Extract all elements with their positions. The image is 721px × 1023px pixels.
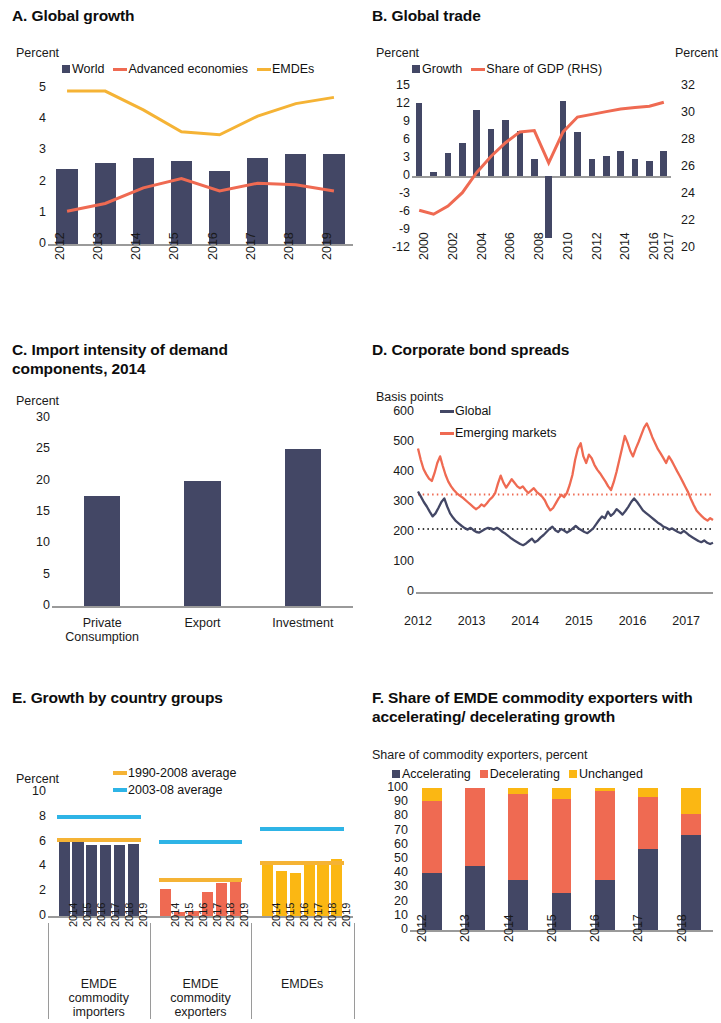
panel-f-y-tick: 10 (376, 908, 408, 922)
panel-f-x-tick: 2018 (675, 914, 689, 942)
panel-e-year-tick: 2017 (211, 903, 223, 927)
panel-d-plot: 0100200300400500600 (368, 406, 720, 608)
panel-d-x-tick: 2016 (611, 614, 655, 628)
panel-c-y-tick: 30 (18, 410, 50, 424)
panel-d-x-tick-labels: 201220132014201520162017 (368, 612, 720, 642)
panel-d-x-tick: 2012 (396, 614, 440, 628)
panel-a-x-tick: 2019 (320, 232, 334, 260)
panel-b-y-axis-label-right: Percent (675, 46, 718, 60)
panel-a-legend-swatch-square (62, 65, 70, 73)
panel-f-y-tick: 50 (376, 851, 408, 865)
panel-e-avg-1990-2008-line (159, 878, 242, 882)
panel-c-category-label: Export (152, 616, 252, 630)
panel-e-year-tick: 2017 (109, 903, 121, 927)
panel-f-bar-segment (595, 788, 615, 791)
panel-a-x-tick: 2014 (129, 232, 143, 260)
panel-b-x-tick: 2014 (618, 232, 632, 260)
panel-a-global-growth: A. Global growth Percent WorldAdvanced e… (8, 6, 360, 306)
panel-e-y-tick: 6 (14, 834, 46, 848)
panel-e-year-tick: 2014 (169, 903, 181, 927)
panel-c-y-tick: 15 (18, 504, 50, 518)
panel-b-legend-item: Growth (412, 62, 462, 76)
panel-f-x-tick: 2017 (631, 914, 645, 942)
panel-a-legend-swatch-line (113, 68, 127, 71)
panel-c-title: C. Import intensity of demand components… (12, 340, 312, 378)
panel-e-group-divider (251, 923, 252, 1019)
panel-e-year-tick: 2019 (238, 903, 250, 927)
panel-e-year-tick: 2018 (326, 903, 338, 927)
panel-c-y-axis-label: Percent (16, 394, 59, 408)
panel-a-x-tick: 2016 (206, 232, 220, 260)
panel-a-legend-label: EMDEs (272, 62, 314, 76)
panel-a-legend-swatch-line (257, 68, 271, 71)
panel-b-legend: GrowthShare of GDP (RHS) (412, 62, 611, 76)
panel-b-y-axis-label-left: Percent (376, 46, 419, 60)
panel-f-legend-swatch-square (480, 770, 488, 778)
panel-f-y-tick: 80 (376, 808, 408, 822)
panel-e-y-tick: 4 (14, 858, 46, 872)
panel-d-series-emerging-markets (418, 423, 713, 520)
panel-c-y-tick: 5 (18, 567, 50, 581)
panel-e-year-tick: 2015 (284, 903, 296, 927)
panel-e-y-tick: 2 (14, 883, 46, 897)
panel-f-legend: AcceleratingDeceleratingUnchanged (392, 767, 652, 781)
panel-d-series (368, 406, 720, 608)
panel-e-avg-2003-08-line (57, 815, 140, 819)
panel-c-category-label: Investment (253, 616, 353, 630)
figure-sheet: A. Global growth Percent WorldAdvanced e… (0, 0, 721, 1023)
panel-f-legend-swatch-square (569, 770, 577, 778)
panel-a-legend-label: World (72, 62, 104, 76)
panel-b-x-tick: 2010 (561, 232, 575, 260)
panel-c-import-intensity: C. Import intensity of demand components… (8, 340, 360, 660)
panel-a-legend-item: World (62, 62, 104, 76)
panel-f-x-axis (410, 930, 713, 932)
panel-c-category-label: Private Consumption (52, 616, 152, 644)
panel-e-year-tick: 2018 (224, 903, 236, 927)
panel-f-bar-segment (681, 814, 701, 835)
panel-f-bar-segment (552, 788, 572, 799)
panel-c-y-tick: 20 (18, 473, 50, 487)
panel-e-group-label: EMDE commodity exporters (150, 977, 252, 1019)
panel-e-year-tick: 2015 (81, 903, 93, 927)
panel-e-y-tick: 8 (14, 809, 46, 823)
panel-a-x-tick: 2015 (167, 232, 181, 260)
panel-a-x-tick: 2018 (282, 232, 296, 260)
panel-d-x-tick: 2014 (503, 614, 547, 628)
panel-c-x-axis (52, 606, 353, 608)
panel-e-legend-item: 1990-2008 average (113, 766, 236, 780)
panel-f-x-tick: 2013 (458, 914, 472, 942)
panel-a-legend: WorldAdvanced economiesEMDEs (62, 62, 323, 76)
panel-f-legend-item: Unchanged (569, 767, 643, 781)
panel-e-year-tick: 2017 (312, 903, 324, 927)
panel-b-plot: -12-9-6-30369121520222426283032 (368, 82, 720, 252)
panel-f-x-tick: 2014 (502, 914, 516, 942)
panel-f-legend-item: Accelerating (392, 767, 471, 781)
panel-f-bar-segment (681, 788, 701, 814)
panel-c-y-tick: 10 (18, 535, 50, 549)
panel-f-bar-segment (465, 788, 485, 866)
panel-a-x-tick-labels: 20122013201420152016201720182019 (8, 256, 360, 306)
panel-f-legend-label: Decelerating (490, 767, 560, 781)
panel-e-legend-swatch (113, 771, 127, 775)
panel-b-x-tick: 2002 (446, 232, 460, 260)
panel-d-series-global (418, 492, 713, 546)
panel-f-legend-swatch-square (392, 770, 400, 778)
panel-e-y-tick: 10 (14, 784, 46, 798)
panel-c-category-labels: Private ConsumptionExportInvestment (8, 614, 360, 660)
panel-c-y-tick: 0 (18, 598, 50, 612)
panel-e-group-label: EMDEs (251, 977, 353, 991)
panel-e-avg-2003-08-line (159, 840, 242, 844)
panel-d-y-axis-label: Basis points (376, 390, 443, 404)
panel-f-y-tick: 70 (376, 823, 408, 837)
panel-f-bar-segment (422, 788, 442, 801)
panel-f-x-tick: 2016 (588, 914, 602, 942)
panel-c-bar (285, 449, 321, 606)
panel-f-bar-segment (638, 797, 658, 850)
panel-f-y-tick: 100 (376, 780, 408, 794)
panel-b-x-tick: 2016 (647, 232, 661, 260)
panel-a-lines (8, 82, 360, 252)
panel-e-title: E. Growth by country groups (12, 688, 223, 707)
panel-e-legend-label: 1990-2008 average (128, 766, 236, 780)
panel-b-share-line (368, 82, 720, 252)
panel-a-y-axis-label: Percent (16, 46, 59, 60)
